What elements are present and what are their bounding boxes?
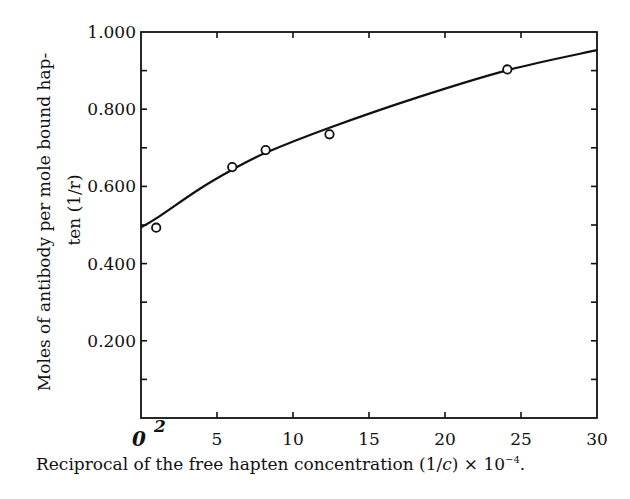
x-tick-label: 10: [282, 429, 304, 449]
handwritten-zero: 0: [132, 427, 146, 451]
chart: 0.2000.4000.6000.8001.000 51015202530 02: [0, 0, 630, 499]
y-tick-label: 0.400: [87, 254, 136, 274]
data-point-marker: [261, 146, 269, 154]
plot-border: [141, 32, 597, 418]
x-tick-label: 5: [212, 429, 223, 449]
axis-ticks: [141, 32, 597, 418]
handwritten-annotations: 02: [132, 416, 166, 451]
y-tick-labels: 0.2000.4000.6000.8001.000: [87, 22, 136, 351]
data-point-marker: [228, 163, 236, 171]
plot-frame: [141, 32, 597, 418]
y-tick-label: 1.000: [87, 22, 136, 42]
y-tick-label: 0.800: [87, 99, 136, 119]
data-point-marker: [152, 224, 160, 232]
x-tick-label: 25: [510, 429, 532, 449]
data-point-marker: [503, 65, 511, 73]
y-tick-label: 0.600: [87, 176, 136, 196]
x-axis-label-main: Reciprocal of the free hapten concentrat…: [36, 454, 442, 474]
x-axis-label-exp: −4: [505, 454, 520, 465]
x-axis-label-var: c: [442, 454, 452, 474]
data-points: [152, 65, 512, 232]
y-tick-label: 0.200: [87, 331, 136, 351]
x-axis-label: Reciprocal of the free hapten concentrat…: [36, 454, 525, 474]
x-axis-label-tail: ) × 10: [452, 454, 505, 474]
x-axis-label-end: .: [520, 454, 525, 474]
x-tick-labels: 51015202530: [212, 429, 608, 449]
handwritten-two: 2: [153, 416, 166, 436]
x-tick-label: 30: [586, 429, 608, 449]
fitted-curve: [141, 50, 597, 227]
x-tick-label: 15: [358, 429, 380, 449]
data-point-marker: [325, 130, 333, 138]
x-tick-label: 20: [434, 429, 456, 449]
